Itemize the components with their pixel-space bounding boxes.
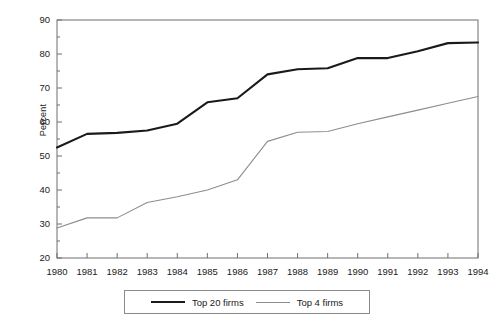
series-line-top-20-firms	[57, 42, 478, 147]
legend-line-swatch-top-20	[151, 301, 185, 303]
legend-entry-top-20-firms: Top 20 firms	[151, 297, 244, 308]
series-line-top-4-firms	[57, 97, 478, 229]
plot-area	[0, 0, 493, 324]
legend-line-swatch-top-4	[256, 302, 290, 303]
line-chart: Percent 2030405060708090 198019811982198…	[0, 0, 493, 324]
plot-frame	[57, 20, 478, 258]
chart-legend: Top 20 firms Top 4 firms	[124, 290, 370, 314]
legend-label-top-4: Top 4 firms	[297, 297, 343, 308]
legend-entry-top-4-firms: Top 4 firms	[256, 297, 343, 308]
legend-label-top-20: Top 20 firms	[192, 297, 244, 308]
